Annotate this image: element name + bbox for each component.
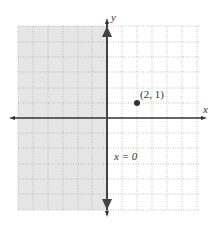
y-axis-top-arrow-icon [105, 18, 109, 24]
x-axis-left-arrow-icon [9, 116, 15, 120]
coordinate-plane: x y (2, 1) x = 0 [0, 0, 217, 230]
boundary-equation-label: x = 0 [113, 150, 138, 162]
test-point [134, 100, 140, 106]
x-axis-label: x [202, 103, 208, 115]
test-point-label: (2, 1) [140, 88, 164, 101]
x-axis-right-arrow-icon [201, 116, 207, 120]
y-axis-label: y [110, 11, 116, 23]
